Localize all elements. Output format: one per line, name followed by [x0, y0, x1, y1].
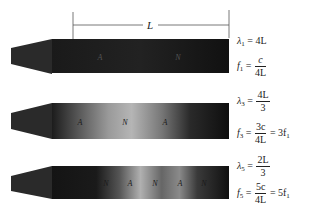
antinode-label: A [77, 118, 83, 127]
dimension-label: L [146, 19, 153, 31]
node-label: N [102, 179, 109, 188]
node-label: N [121, 118, 128, 127]
mouthpiece [11, 39, 52, 74]
node-label: N [174, 53, 181, 62]
pipe-first-harmonic: AN [11, 39, 229, 74]
length-dimension: L [73, 10, 229, 40]
mouthpiece [11, 103, 52, 139]
wavelength-eq-3: λ3 = 4L3 [237, 90, 271, 113]
antinode-label: A [97, 53, 103, 62]
pipe-diagram: L AN ANA NANAN [0, 0, 321, 208]
pipe-third-harmonic: ANA [11, 103, 229, 139]
antinode-label: A [127, 179, 133, 188]
frequency-eq-5: f5 = 5c4L = 5f1 [237, 182, 290, 205]
wavelength-eq-1: λ1 = 4L [237, 36, 267, 48]
antinode-label: A [162, 118, 168, 127]
wavelength-eq-5: λ5 = 2L3 [237, 155, 271, 178]
mouthpiece [11, 166, 52, 199]
antinode-label: A [177, 179, 183, 188]
node-label: N [151, 179, 158, 188]
pipe-body [52, 39, 229, 73]
frequency-eq-3: f3 = 3c4L = 3f1 [237, 122, 290, 145]
frequency-eq-1: f1 = c4L [237, 55, 267, 78]
node-label: N [200, 179, 207, 188]
pipe-fifth-harmonic: NANAN [11, 166, 229, 199]
